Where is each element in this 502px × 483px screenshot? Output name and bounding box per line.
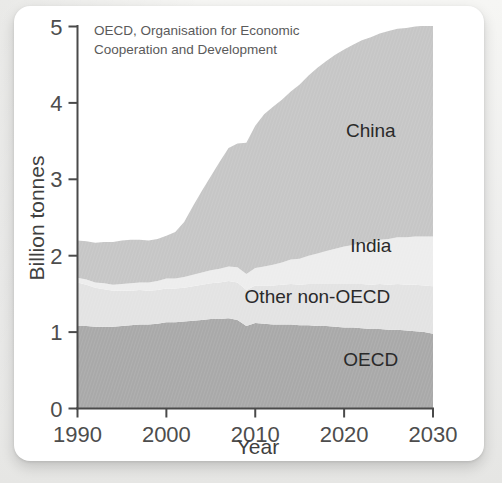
series-label-china: China <box>346 120 396 141</box>
stacked-area-chart: 012345 19902000201020202030 Billion tonn… <box>14 6 484 461</box>
x-tick-label: 2030 <box>409 422 458 447</box>
y-tick-label: 4 <box>50 91 62 116</box>
series-label-other-non-oecd: Other non-OECD <box>245 286 391 307</box>
y-axis-tick-labels: 012345 <box>50 15 62 422</box>
y-axis-title: Billion tonnes <box>25 156 48 281</box>
figure-card: 012345 19902000201020202030 Billion tonn… <box>14 6 484 461</box>
x-axis-title: Year <box>237 435 279 458</box>
y-axis-ticks <box>69 27 78 409</box>
series-label-india: India <box>350 235 392 256</box>
x-tick-label: 2020 <box>320 422 369 447</box>
y-tick-label: 3 <box>50 167 62 192</box>
oecd-note-line-2: Cooperation and Development <box>94 42 277 57</box>
x-tick-label: 2000 <box>142 422 191 447</box>
y-tick-label: 2 <box>50 244 62 269</box>
x-tick-label: 1990 <box>53 422 102 447</box>
series-label-oecd: OECD <box>343 349 398 370</box>
chart-canvas: 012345 19902000201020202030 Billion tonn… <box>14 6 484 461</box>
y-tick-label: 5 <box>50 15 62 40</box>
y-tick-label: 0 <box>50 397 62 422</box>
oecd-note-line-1: OECD, Organisation for Economic <box>94 23 300 38</box>
y-tick-label: 1 <box>50 320 62 345</box>
